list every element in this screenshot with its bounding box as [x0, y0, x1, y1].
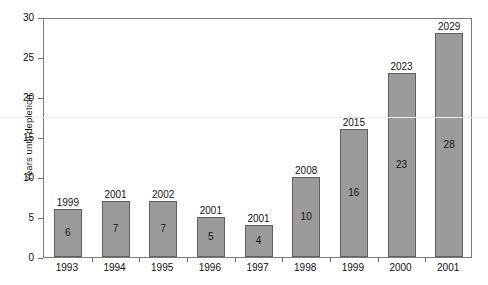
bar-value-label: 10 — [293, 211, 319, 223]
bar-value-label: 7 — [103, 223, 129, 235]
x-axis-category-label: 1995 — [151, 262, 173, 274]
bar-top-label: 1999 — [57, 197, 79, 209]
bar-top-label: 2002 — [152, 189, 174, 201]
y-axis-tick-label: 5 — [28, 211, 34, 224]
bar-top-label: 2001 — [247, 213, 269, 225]
x-axis-minor-tick — [187, 257, 188, 262]
y-axis-tick-label: 15 — [23, 131, 34, 144]
y-axis-tick-mark — [38, 258, 43, 259]
x-axis-minor-tick — [330, 257, 331, 262]
x-axis-minor-tick — [92, 257, 93, 262]
y-axis-tick-label: 20 — [23, 91, 34, 104]
bar-top-label: 2001 — [200, 205, 222, 217]
x-axis-category-label: 2000 — [389, 262, 411, 274]
x-axis-minor-tick — [425, 257, 426, 262]
y-axis-tick-label: 10 — [23, 171, 34, 184]
y-axis-tick-label: 25 — [23, 51, 34, 64]
bar-chart: Years until depletion 051015202530 61999… — [0, 0, 488, 285]
x-axis-minor-tick — [378, 257, 379, 262]
x-axis-minor-tick — [139, 257, 140, 262]
bar: 23 — [388, 73, 416, 257]
bar-value-label: 23 — [389, 159, 415, 171]
x-axis-category-label: 1994 — [103, 262, 125, 274]
bar-value-label: 28 — [436, 139, 462, 151]
y-axis-tick-label: 30 — [23, 11, 34, 24]
bar-value-label: 6 — [55, 227, 81, 239]
y-axis-tick-label: 0 — [28, 251, 34, 264]
bar-top-label: 2001 — [104, 189, 126, 201]
bar-value-label: 7 — [150, 223, 176, 235]
x-axis-category-label: 1998 — [294, 262, 316, 274]
x-axis-minor-tick — [235, 257, 236, 262]
x-axis-category-label: 1997 — [246, 262, 268, 274]
bar: 7 — [149, 201, 177, 257]
x-axis-minor-tick — [282, 257, 283, 262]
bar: 5 — [197, 217, 225, 257]
plot-area: 6199972001720025200142001102008162015232… — [43, 18, 472, 258]
bar: 6 — [54, 209, 82, 257]
bar: 4 — [245, 225, 273, 257]
bar: 28 — [435, 33, 463, 257]
bar-value-label: 4 — [246, 235, 272, 247]
x-axis-category-label: 1999 — [342, 262, 364, 274]
bar: 16 — [340, 129, 368, 257]
bar-value-label: 16 — [341, 187, 367, 199]
bar: 7 — [102, 201, 130, 257]
x-axis-category-label: 1996 — [199, 262, 221, 274]
x-axis-category-label: 2001 — [437, 262, 459, 274]
bar-top-label: 2029 — [438, 21, 460, 33]
bar-value-label: 5 — [198, 231, 224, 243]
bar-top-label: 2008 — [295, 165, 317, 177]
bar-top-label: 2015 — [343, 117, 365, 129]
bar-top-label: 2023 — [390, 61, 412, 73]
x-axis-category-label: 1993 — [56, 262, 78, 274]
bar: 10 — [292, 177, 320, 257]
